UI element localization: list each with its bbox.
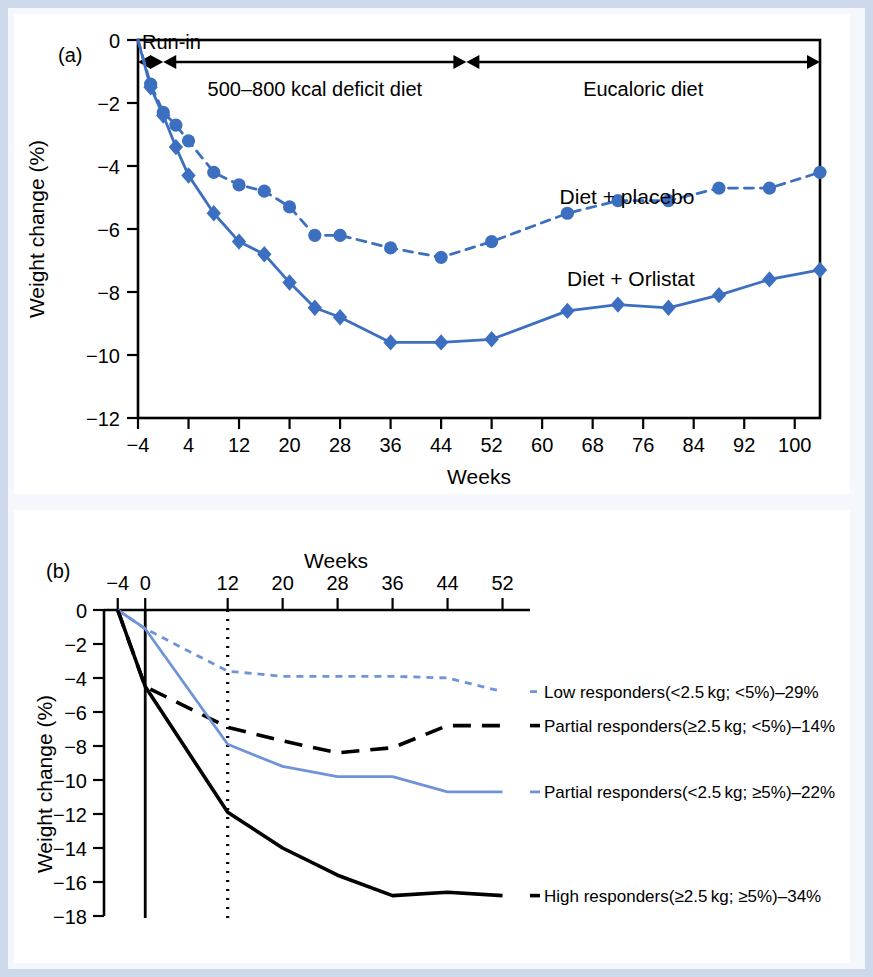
phase-band-eucaloric: Eucaloric diet — [466, 55, 820, 100]
panel-a-x-tick-label: 76 — [632, 434, 654, 456]
data-point-circle — [813, 166, 826, 179]
panel-a-y-tick-label: −2 — [97, 93, 120, 115]
panel-b-label: (b) — [46, 560, 70, 582]
panel-b-y-tick-label: −2 — [64, 634, 87, 656]
panel-b-y-ticks: 0−2−4−6−8−10−12−14−16−18 — [53, 600, 104, 928]
data-point-circle — [435, 251, 448, 264]
arrow-head-right — [453, 55, 466, 69]
data-point-diamond — [560, 303, 574, 319]
data-point-circle — [207, 166, 220, 179]
series-label-diet-orlistat: Diet + Orlistat — [567, 267, 695, 290]
series-line-diet-placebo — [138, 40, 820, 257]
legend-label-2: Partial responders(<2.5 kg; ≥5%)–22% — [544, 783, 835, 802]
panel-a-y-tick-label: −4 — [97, 156, 120, 178]
data-point-circle — [169, 118, 182, 131]
panel-a-x-tick-label: 44 — [430, 434, 452, 456]
data-point-circle — [763, 181, 776, 194]
panel-b-x-tick-label: 12 — [217, 572, 239, 594]
legend-label-1: Partial responders(≥2.5 kg; <5%)–14% — [544, 717, 835, 736]
series-line-low-responders — [118, 610, 503, 692]
data-point-circle — [308, 229, 321, 242]
panel-b-x-tick-label: 36 — [381, 572, 403, 594]
phase-band-deficit: 500–800 kcal deficit diet — [163, 55, 466, 100]
phase-band-label: Run-in — [142, 31, 201, 53]
panel-a-y-tick-label: −6 — [97, 219, 120, 241]
series-line-partial-respon — [118, 610, 503, 792]
data-point-circle — [232, 178, 245, 191]
panel-b-x-tick-label: −4 — [106, 572, 129, 594]
panel-a-y-tick-label: −8 — [97, 282, 120, 304]
data-point-diamond — [813, 262, 827, 278]
data-point-diamond — [434, 334, 448, 350]
panel-b-y-tick-label: −16 — [53, 872, 87, 894]
phase-band-label: Eucaloric diet — [583, 78, 704, 100]
arrow-head-right — [150, 55, 163, 69]
arrow-head-left — [163, 55, 176, 69]
panel-a-x-ticks: −441220283644526068768492100 — [127, 418, 812, 456]
panel-b-series-group — [118, 610, 503, 896]
panel-a-x-tick-label: −4 — [127, 434, 150, 456]
panel-a-y-tick-label: −12 — [86, 408, 120, 430]
panel-b-y-tick-label: −10 — [53, 770, 87, 792]
panel-a-x-tick-label: 84 — [683, 434, 705, 456]
panel-a-x-tick-label: 92 — [733, 434, 755, 456]
panel-b-y-tick-label: −4 — [64, 668, 87, 690]
panel-a-x-tick-label: 20 — [278, 434, 300, 456]
panel-b-x-tick-label: 28 — [326, 572, 348, 594]
panel-a-x-tick-label: 28 — [329, 434, 351, 456]
data-point-diamond — [661, 300, 675, 316]
panel-b-chart: (b) Weeks Weight change (%) −40122028364… — [14, 506, 850, 971]
panel-b-y-tick-label: −6 — [64, 702, 87, 724]
data-point-diamond — [762, 271, 776, 287]
panel-a-label: (a) — [58, 44, 82, 66]
panel-a-chart: (a) 0−2−4−6−8−10−12 −4412202836445260687… — [14, 14, 850, 494]
panel-b-x-tick-label: 52 — [491, 572, 513, 594]
data-point-circle — [384, 241, 397, 254]
series-label-diet-placebo: Diet + placebo — [560, 185, 695, 208]
data-point-circle — [333, 229, 346, 242]
panel-a-x-tick-label: 100 — [778, 434, 811, 456]
phase-band-label: 500–800 kcal deficit diet — [208, 78, 423, 100]
panel-b-y-tick-label: −8 — [64, 736, 87, 758]
data-point-diamond — [383, 334, 397, 350]
data-point-circle — [283, 200, 296, 213]
panel-a-x-tick-label: 4 — [183, 434, 194, 456]
panel-a-x-tick-label: 12 — [228, 434, 250, 456]
panel-a-y-tick-label: −10 — [86, 345, 120, 367]
data-point-diamond — [611, 296, 625, 312]
data-point-diamond — [333, 309, 347, 325]
arrow-head-left — [466, 55, 479, 69]
panel-b-x-tick-label: 44 — [436, 572, 458, 594]
panel-b-legend: Low responders(<2.5 kg; <5%)–29%Partial … — [530, 683, 835, 906]
panel-b-x-axis-title: Weeks — [304, 549, 368, 572]
panel-a-x-axis-title: Weeks — [447, 465, 511, 488]
data-point-diamond — [484, 331, 498, 347]
panel-a-x-tick-label: 36 — [379, 434, 401, 456]
panel-a-phase-bands: Run-in500–800 kcal deficit dietEucaloric… — [138, 31, 820, 100]
legend-label-3: High responders(≥2.5 kg; ≥5%)–34% — [544, 887, 821, 906]
legend-label-0: Low responders(<2.5 kg; <5%)–29% — [544, 683, 819, 702]
panel-b-x-tick-label: 0 — [140, 572, 151, 594]
panel-a-x-tick-label: 60 — [531, 434, 553, 456]
panel-b-vertical-markers — [145, 610, 227, 924]
panel-b-y-tick-label: 0 — [76, 600, 87, 622]
data-point-diamond — [712, 287, 726, 303]
data-point-circle — [258, 185, 271, 198]
panel-a-y-tick-label: 0 — [109, 30, 120, 52]
data-point-circle — [712, 181, 725, 194]
panel-a-y-ticks: 0−2−4−6−8−10−12 — [86, 30, 138, 430]
figure-container: (a) 0−2−4−6−8−10−12 −4412202836445260687… — [0, 0, 873, 977]
series-line-high-responder — [118, 610, 503, 896]
data-point-diamond — [169, 139, 183, 155]
panel-b-x-tick-label: 20 — [272, 572, 294, 594]
panel-b-y-tick-label: −14 — [53, 838, 87, 860]
data-point-circle — [485, 235, 498, 248]
panel-b-y-tick-label: −12 — [53, 804, 87, 826]
panel-b-x-ticks: −40122028364452 — [106, 572, 513, 610]
panel-a-x-tick-label: 68 — [582, 434, 604, 456]
panel-a-x-tick-label: 52 — [481, 434, 503, 456]
data-point-circle — [561, 207, 574, 220]
panel-a-y-axis-title: Weight change (%) — [25, 140, 48, 318]
data-point-circle — [182, 134, 195, 147]
arrow-head-right — [807, 55, 820, 69]
